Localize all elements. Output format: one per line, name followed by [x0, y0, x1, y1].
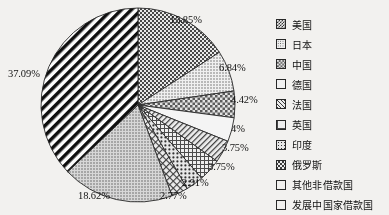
- pie-value-label: 4%: [231, 123, 245, 134]
- legend-item[interactable]: 德国: [276, 74, 389, 94]
- pie-value-label: 15.85%: [170, 14, 202, 25]
- pie-value-label: 2.91%: [182, 177, 209, 188]
- legend-swatch-icon: [276, 140, 286, 150]
- pie-value-label: 3.75%: [208, 161, 235, 172]
- legend-item[interactable]: 中国: [276, 54, 389, 74]
- legend-swatch-icon: [276, 39, 286, 49]
- pie-svg: [0, 0, 272, 215]
- legend-item[interactable]: 美国: [276, 14, 389, 34]
- pie-value-label: 2.77%: [160, 190, 187, 201]
- legend-item[interactable]: 发展中国家借款国: [276, 195, 389, 215]
- legend-item-label: 其他非借款国: [292, 177, 353, 192]
- legend-item[interactable]: 其他非借款国: [276, 175, 389, 195]
- legend-item-label: 英国: [292, 117, 312, 132]
- legend-item-label: 日本: [292, 37, 312, 52]
- legend-swatch-icon: [276, 180, 286, 190]
- legend: 美国日本中国德国法国英国印度俄罗斯其他非借款国发展中国家借款国: [276, 14, 389, 215]
- legend-item-label: 俄罗斯: [292, 157, 323, 172]
- legend-swatch-icon: [276, 79, 286, 89]
- legend-swatch-icon: [276, 59, 286, 69]
- pie-plot-area: 15.85%6.84%4.42%4%3.75%3.75%2.91%2.77%18…: [0, 0, 272, 215]
- legend-item-label: 中国: [292, 57, 312, 72]
- legend-item[interactable]: 俄罗斯: [276, 155, 389, 175]
- legend-swatch-icon: [276, 160, 286, 170]
- pie-value-label: 37.09%: [8, 68, 40, 79]
- legend-item-label: 美国: [292, 17, 312, 32]
- legend-item-label: 德国: [292, 77, 312, 92]
- legend-item[interactable]: 日本: [276, 34, 389, 54]
- legend-item[interactable]: 印度: [276, 135, 389, 155]
- pie-slices: [41, 8, 235, 202]
- legend-swatch-icon: [276, 200, 286, 210]
- pie-value-label: 3.75%: [222, 142, 249, 153]
- legend-item-label: 印度: [292, 137, 312, 152]
- pie-value-label: 4.42%: [231, 94, 258, 105]
- legend-item[interactable]: 英国: [276, 114, 389, 134]
- legend-swatch-icon: [276, 120, 286, 130]
- pie-value-label: 6.84%: [219, 62, 246, 73]
- pie-chart-figure: 15.85%6.84%4.42%4%3.75%3.75%2.91%2.77%18…: [0, 0, 389, 215]
- legend-item[interactable]: 法国: [276, 94, 389, 114]
- pie-value-label: 18.62%: [78, 190, 110, 201]
- legend-item-label: 发展中国家借款国: [292, 197, 374, 212]
- legend-item-label: 法国: [292, 97, 312, 112]
- legend-swatch-icon: [276, 99, 286, 109]
- legend-swatch-icon: [276, 19, 286, 29]
